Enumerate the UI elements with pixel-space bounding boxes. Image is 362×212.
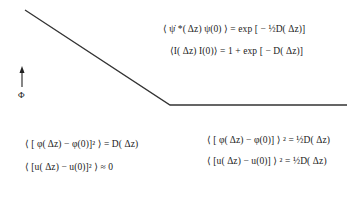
phi-axis-label: Φ [18,91,25,100]
formula-intensity-correlation: ⟨I( Δz) I(0)⟩ = 1 + exp [ − D( Δz)] [170,47,303,57]
formula-amplitude-variance-right: ⟨ [u( Δz) − u(0)] ⟩ ² = ½D( Δz) [207,157,327,167]
phi-axis-arrow-icon [20,66,25,87]
formula-field-correlation: ⟨ ψ̇ *( Δz) ψ(0) ⟩ = exp [ − ½D( Δz)] [163,25,305,35]
formula-phase-variance-right: ⟨ [ φ( Δz) − φ(0)] ⟩ ² = ½D( Δz) [207,136,330,146]
formula-amplitude-variance-left: ⟨ [u( Δz) − u(0)]² ⟩ ≈ 0 [25,163,113,173]
formula-phase-variance-left: ⟨ [ φ( Δz) − φ(0)]² ⟩ = D( Δz) [25,140,138,150]
